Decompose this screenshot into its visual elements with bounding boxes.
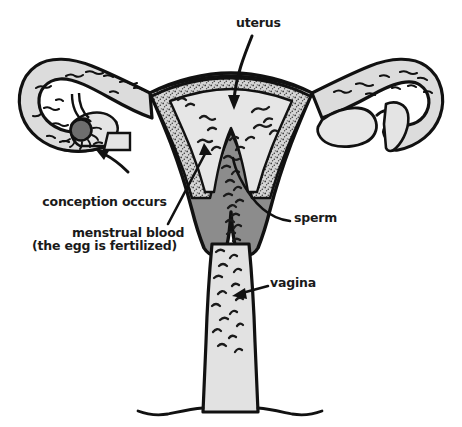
label-sperm: sperm <box>294 211 337 226</box>
label-vagina: vagina <box>270 276 316 291</box>
label-uterus: uterus <box>236 16 281 31</box>
label-conception-line2: (the egg is fertilized) <box>32 239 177 254</box>
vagina <box>203 244 258 412</box>
left-fallopian-tube-group <box>19 59 152 151</box>
right-fallopian-tube-group <box>312 59 443 151</box>
label-conception: conception occurs (the egg is fertilized… <box>32 165 177 283</box>
label-menstrual-blood: menstrual blood <box>72 226 184 241</box>
perineum-left-line <box>138 408 203 415</box>
label-conception-line1: conception occurs <box>32 195 177 210</box>
anatomy-diagram: uterus conception occurs (the egg is fer… <box>0 0 462 427</box>
perineum-right-line <box>258 408 322 415</box>
left-ovarian-ligament <box>104 133 130 150</box>
